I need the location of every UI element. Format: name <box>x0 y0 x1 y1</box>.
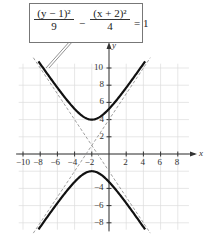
x-tick-label: 4 <box>140 157 145 167</box>
y-tick-label: 8 <box>100 79 105 89</box>
x-tick-label: −2 <box>85 157 95 167</box>
y-tick-label: 10 <box>94 62 103 72</box>
equals-one: = 1 <box>134 17 148 29</box>
y-tick-label: 4 <box>100 114 105 124</box>
x-tick-label: −8 <box>33 157 43 167</box>
x-tick-label: −4 <box>68 157 78 167</box>
fraction-2-numerator: (x + 2)² <box>90 7 130 20</box>
y-tick-label: 6 <box>100 96 105 106</box>
y-axis-label: y <box>112 40 116 50</box>
y-tick-label: 2 <box>100 131 105 141</box>
callout-leader-2 <box>49 41 73 68</box>
equation-callout: (y − 1)² 9 − (x + 2)² 4 = 1 <box>29 3 143 43</box>
fraction-1: (y − 1)² 9 <box>34 7 74 32</box>
fraction-2: (x + 2)² 4 <box>90 7 130 32</box>
y-tick-label: −6 <box>94 200 104 210</box>
x-tick-label: 2 <box>123 157 128 167</box>
x-tick-label: 8 <box>175 157 180 167</box>
fraction-1-denominator: 9 <box>34 20 74 32</box>
fraction-1-numerator: (y − 1)² <box>34 7 74 20</box>
y-tick-label: −4 <box>94 182 104 192</box>
y-tick-label: −8 <box>94 217 104 227</box>
x-tick-label: −6 <box>50 157 60 167</box>
x-tick-label: 6 <box>158 157 163 167</box>
x-axis-label: x <box>199 148 203 158</box>
x-tick-label: −10 <box>16 157 30 167</box>
minus-sign: − <box>79 17 85 29</box>
fraction-2-denominator: 4 <box>90 20 130 32</box>
callout-leader <box>46 41 70 68</box>
